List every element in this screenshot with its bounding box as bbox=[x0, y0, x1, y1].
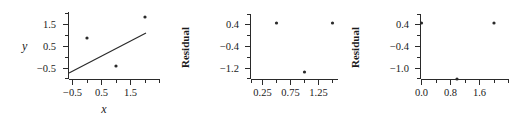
data-point bbox=[492, 21, 495, 24]
panel-residual-right: Residual 0.4 −0.4 −1.0 0.0 bbox=[340, 0, 516, 118]
panel1-y-axis-title: y bbox=[21, 39, 28, 53]
panel2-ytick-label-1: 0.4 bbox=[226, 19, 240, 30]
panel1-xtick-label-1: −0.5 bbox=[63, 87, 82, 98]
panel-scatter-y-vs-x: y 1.5 0.5 −0.5 bbox=[0, 0, 172, 118]
panel3-xtick-label-2: 0.8 bbox=[444, 87, 457, 98]
panel1-xtick-label-3: 1.5 bbox=[124, 87, 137, 98]
panel3-ytick-label-2: −0.4 bbox=[390, 41, 410, 52]
panel3-xtick-label-3: 1.6 bbox=[473, 87, 486, 98]
panel1-ytick-label-3: −0.5 bbox=[37, 63, 56, 74]
data-point bbox=[114, 64, 117, 67]
panel2-xtick-label-1: 0.25 bbox=[253, 87, 271, 98]
panel1-ytick-label-1: 1.5 bbox=[43, 19, 56, 30]
data-point bbox=[303, 70, 306, 73]
panel1-x-axis-title: x bbox=[100, 102, 107, 116]
data-point bbox=[275, 21, 278, 24]
regression-fit-line bbox=[69, 33, 146, 73]
data-point bbox=[455, 77, 458, 80]
panel2-xtick-label-2: 0.75 bbox=[281, 87, 299, 98]
panel-3-canvas: Residual 0.4 −0.4 −1.0 0.0 bbox=[340, 0, 516, 118]
data-point bbox=[143, 15, 146, 18]
panel3-y-axis-title: Residual bbox=[349, 27, 361, 68]
panel3-xtick-label-1: 0.0 bbox=[415, 87, 428, 98]
panel3-ytick-label-3: −1.0 bbox=[390, 63, 409, 74]
panel2-ytick-label-3: −1.2 bbox=[220, 63, 239, 74]
panel-1-canvas: y 1.5 0.5 −0.5 bbox=[0, 0, 172, 118]
panel2-ytick-label-2: −0.4 bbox=[220, 41, 240, 52]
panel2-y-axis-title: Residual bbox=[179, 27, 191, 68]
data-point bbox=[331, 21, 334, 24]
panel-2-canvas: Residual 0.4 −0.4 −1.2 0.25 bbox=[170, 0, 345, 118]
data-point bbox=[420, 21, 423, 24]
panel3-ytick-label-1: 0.4 bbox=[396, 19, 410, 30]
panel1-ytick-label-2: 0.5 bbox=[43, 41, 56, 52]
panel1-xtick-label-2: 0.5 bbox=[95, 87, 108, 98]
panel-residual-middle: Residual 0.4 −0.4 −1.2 0.25 bbox=[170, 0, 345, 118]
data-point bbox=[85, 36, 88, 39]
residual-plot-figure: y 1.5 0.5 −0.5 bbox=[0, 0, 516, 118]
panel2-xtick-label-3: 1.25 bbox=[309, 87, 327, 98]
